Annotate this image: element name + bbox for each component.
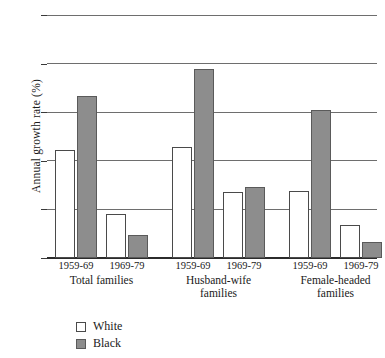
period-label-g1-p1: 1969-79 bbox=[214, 260, 274, 271]
legend-swatch-white bbox=[76, 322, 86, 332]
group-label-2: Female-headed families bbox=[281, 274, 385, 300]
legend-label-black: Black bbox=[93, 336, 121, 351]
legend-item-black: Black bbox=[76, 335, 122, 352]
bar-black-g1-p1 bbox=[245, 187, 265, 258]
group-label-1: Husband-wife families bbox=[164, 274, 274, 300]
x-axis-labels: 1959-691969-79Total families1959-691969-… bbox=[47, 260, 377, 306]
chart-legend: WhiteBlack bbox=[76, 318, 122, 352]
bar-black-g0-p1 bbox=[128, 235, 148, 258]
legend-item-white: White bbox=[76, 318, 122, 335]
gridline-5 bbox=[47, 15, 377, 16]
bar-black-g0-p0 bbox=[77, 96, 97, 258]
bar-black-g2-p0 bbox=[311, 110, 331, 258]
bar-white-g0-p1 bbox=[106, 214, 126, 258]
group-label-0: Total families bbox=[47, 274, 157, 287]
y-tick-mark-4 bbox=[41, 64, 47, 65]
plot-area: 012345 bbox=[47, 15, 377, 258]
y-tick-mark-1 bbox=[41, 209, 47, 210]
y-tick-mark-3 bbox=[41, 112, 47, 113]
y-tick-mark-0 bbox=[41, 258, 47, 259]
y-axis-title: Annual growth rate (%) bbox=[30, 36, 42, 236]
legend-label-white: White bbox=[93, 319, 122, 334]
legend-swatch-black bbox=[76, 339, 86, 349]
bar-white-g1-p0 bbox=[172, 147, 192, 258]
bar-white-g2-p0 bbox=[289, 191, 309, 258]
period-label-g0-p1: 1969-79 bbox=[97, 260, 157, 271]
y-tick-mark-2 bbox=[41, 161, 47, 162]
bar-black-g2-p1 bbox=[362, 242, 382, 258]
y-tick-mark-5 bbox=[41, 15, 47, 16]
bar-black-g1-p0 bbox=[194, 69, 214, 258]
bar-chart-figure: Annual growth rate (%) 012345 1959-69196… bbox=[0, 0, 385, 358]
period-label-g2-p1: 1969-79 bbox=[331, 260, 385, 271]
bar-white-g1-p1 bbox=[223, 192, 243, 258]
gridline-4 bbox=[47, 63, 377, 64]
bar-white-g2-p1 bbox=[340, 225, 360, 258]
bar-white-g0-p0 bbox=[55, 150, 75, 258]
